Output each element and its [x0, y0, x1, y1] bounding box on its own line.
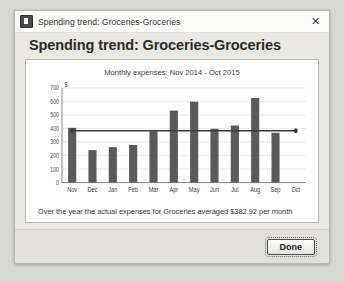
x-tick-label: Aug	[250, 186, 260, 195]
chart-panel: Monthly expenses: Nov 2014 - Oct 2015 $0…	[25, 59, 319, 223]
spending-trend-dialog: Spending trend: Groceries-Groceries ✕ Sp…	[14, 10, 330, 264]
close-icon[interactable]: ✕	[303, 12, 327, 32]
x-tick-label: Jun	[210, 186, 219, 194]
x-tick-label: Jul	[231, 186, 239, 194]
monthly-expenses-bar-chart: $0100200300400500600700NovDecJanFebMarAp…	[34, 80, 310, 201]
bar	[170, 111, 178, 183]
y-tick-label: 300	[50, 139, 59, 146]
bar	[88, 150, 96, 182]
bar	[231, 125, 239, 182]
x-tick-label: Mar	[149, 186, 159, 194]
bar	[129, 145, 137, 183]
titlebar-title: Spending trend: Groceries-Groceries	[38, 17, 303, 27]
x-tick-label: Jan	[108, 186, 117, 194]
x-tick-label: Oct	[291, 186, 300, 194]
page-title: Spending trend: Groceries-Groceries	[29, 37, 315, 53]
chart-area: $0100200300400500600700NovDecJanFebMarAp…	[34, 80, 310, 201]
heading-band: Spending trend: Groceries-Groceries	[15, 33, 329, 59]
done-button[interactable]: Done	[267, 239, 316, 255]
dialog-footer: Done	[15, 229, 329, 263]
average-line-end-dot	[294, 128, 298, 133]
dialog-body: Monthly expenses: Nov 2014 - Oct 2015 $0…	[15, 59, 329, 229]
bar	[109, 147, 117, 182]
y-tick-label: 100	[50, 166, 59, 173]
x-tick-label: May	[189, 186, 200, 195]
y-tick-label: 600	[50, 98, 59, 105]
app-icon	[20, 15, 33, 28]
bar	[149, 131, 157, 182]
x-tick-label: Dec	[88, 186, 99, 194]
bar	[210, 129, 218, 183]
bar	[271, 133, 279, 183]
average-line-start-dot	[70, 128, 74, 133]
bar	[68, 128, 76, 183]
x-tick-label: Sep	[271, 186, 281, 195]
x-tick-label: Apr	[169, 186, 178, 195]
y-tick-label: 0	[56, 179, 59, 186]
x-tick-label: Feb	[128, 186, 138, 194]
y-tick-label: 500	[50, 112, 59, 119]
chart-title: Monthly expenses: Nov 2014 - Oct 2015	[34, 68, 310, 77]
y-tick-label: 400	[50, 125, 59, 132]
y-axis-unit-label: $	[64, 80, 67, 88]
bar	[190, 102, 198, 183]
y-tick-label: 200	[50, 152, 59, 159]
y-tick-label: 700	[50, 85, 59, 92]
bar	[251, 98, 259, 183]
titlebar: Spending trend: Groceries-Groceries ✕	[15, 11, 329, 33]
summary-text: Over the year the actual expenses for Gr…	[34, 201, 310, 218]
x-tick-label: Nov	[67, 186, 78, 194]
